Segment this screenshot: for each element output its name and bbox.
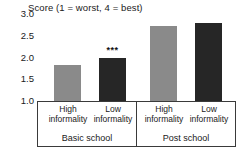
bar-post-low-informality (195, 23, 222, 101)
bar-post-high-informality (150, 26, 177, 101)
category-label-post-high: High informality (139, 104, 189, 124)
category-label-basic-high: High informality (43, 104, 93, 124)
y-tick-label-3: 3.0 (2, 9, 34, 19)
significance-marker-basic-low: *** (99, 46, 126, 55)
bar-chart-figure: Score (1 = worst, 4 = best) 3.0 2.5 2.0 … (0, 0, 242, 151)
category-label-basic-high-line1: High (43, 104, 93, 114)
bar-basic-low-informality (99, 58, 126, 102)
group-label-basic-school: Basic school (38, 133, 136, 143)
group-label-post-school: Post school (137, 133, 235, 143)
y-tick-label-2: 2.0 (2, 53, 34, 63)
category-label-post-high-line1: High (139, 104, 189, 114)
y-tick-label-15: 1.5 (2, 74, 34, 84)
plot-area: *** (37, 14, 235, 101)
y-axis: 3.0 2.5 2.0 1.5 1.0 (2, 0, 34, 151)
category-label-post-low-line1: Low (184, 104, 234, 114)
category-label-basic-high-line2: informality (43, 114, 93, 124)
category-label-post-low: Low informality (184, 104, 234, 124)
bar-basic-high-informality (54, 65, 81, 101)
y-tick-label-1: 1.0 (2, 96, 34, 106)
category-label-band: Basic school Post school High informalit… (37, 101, 236, 147)
category-label-post-high-line2: informality (139, 114, 189, 124)
chart-title: Score (1 = worst, 4 = best) (28, 2, 143, 13)
category-label-post-low-line2: informality (184, 114, 234, 124)
category-label-basic-low-line2: informality (88, 114, 138, 124)
category-label-basic-low: Low informality (88, 104, 138, 124)
category-label-basic-low-line1: Low (88, 104, 138, 114)
y-tick-label-25: 2.5 (2, 31, 34, 41)
